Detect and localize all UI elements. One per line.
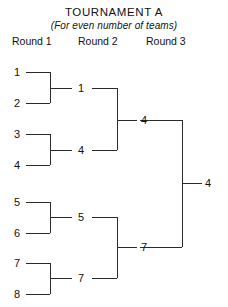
round3-winner-2: 7	[141, 242, 147, 253]
seed-4: 4	[14, 160, 20, 171]
champion-label: 4	[205, 178, 211, 189]
round-label-3: Round 3	[146, 35, 186, 47]
page-title: TOURNAMENT A	[0, 6, 228, 18]
seed-6: 6	[14, 228, 20, 239]
round2-winner-2: 4	[78, 145, 84, 156]
seed-2: 2	[14, 98, 20, 109]
seed-8: 8	[14, 289, 20, 300]
seed-1: 1	[14, 67, 20, 78]
round-label-2: Round 2	[78, 35, 118, 47]
seed-3: 3	[14, 129, 20, 140]
seed-5: 5	[14, 197, 20, 208]
round2-winner-3: 5	[78, 212, 84, 223]
tournament-bracket: TOURNAMENT A (For even number of teams) …	[0, 0, 228, 307]
seed-7: 7	[14, 258, 20, 269]
round-labels: Round 1 Round 2 Round 3	[0, 35, 228, 49]
page-subtitle: (For even number of teams)	[0, 20, 228, 31]
round3-winner-1: 4	[141, 115, 147, 126]
round2-winner-4: 7	[78, 273, 84, 284]
round2-winner-1: 1	[78, 83, 84, 94]
round-label-1: Round 1	[12, 35, 52, 47]
